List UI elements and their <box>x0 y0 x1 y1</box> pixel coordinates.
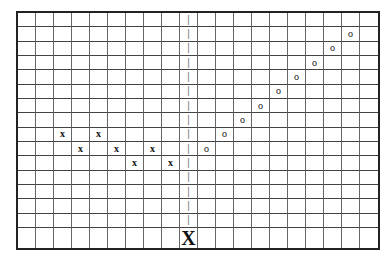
board-cell[interactable] <box>342 99 360 113</box>
board-cell[interactable] <box>36 56 54 70</box>
board-cell[interactable] <box>342 85 360 99</box>
board-cell[interactable] <box>324 199 342 213</box>
board-cell[interactable] <box>306 70 324 84</box>
board-cell[interactable]: o <box>342 27 360 41</box>
board-cell[interactable] <box>36 214 54 228</box>
board-cell[interactable] <box>72 85 90 99</box>
board-cell[interactable] <box>72 56 90 70</box>
board-cell[interactable] <box>252 70 270 84</box>
board-cell[interactable] <box>162 214 180 228</box>
board-cell[interactable] <box>90 42 108 56</box>
board-cell[interactable] <box>288 128 306 142</box>
board-cell[interactable] <box>216 142 234 156</box>
board-cell[interactable] <box>216 42 234 56</box>
board-cell[interactable] <box>36 185 54 199</box>
board-cell[interactable] <box>306 171 324 185</box>
board-cell[interactable] <box>54 27 72 41</box>
board-cell[interactable] <box>306 142 324 156</box>
board-cell[interactable] <box>72 99 90 113</box>
board-cell[interactable] <box>270 214 288 228</box>
board-cell[interactable] <box>72 42 90 56</box>
board-cell[interactable] <box>72 199 90 213</box>
board-cell[interactable] <box>36 27 54 41</box>
board-cell[interactable] <box>162 128 180 142</box>
board-cell[interactable] <box>324 142 342 156</box>
board-cell[interactable] <box>324 99 342 113</box>
board-cell[interactable] <box>360 56 378 70</box>
board-cell[interactable] <box>270 185 288 199</box>
board-cell[interactable] <box>306 156 324 170</box>
board-cell[interactable] <box>198 199 216 213</box>
board-cell[interactable] <box>234 99 252 113</box>
board-cell[interactable] <box>72 128 90 142</box>
board-cell[interactable] <box>18 171 36 185</box>
board-cell[interactable] <box>360 214 378 228</box>
board-cell[interactable] <box>162 99 180 113</box>
board-cell[interactable] <box>126 13 144 27</box>
board-cell[interactable] <box>90 171 108 185</box>
board-cell[interactable] <box>198 128 216 142</box>
board-cell[interactable] <box>324 113 342 127</box>
board-cell[interactable] <box>90 27 108 41</box>
board-cell[interactable] <box>126 228 144 248</box>
board-cell[interactable] <box>108 185 126 199</box>
board-cell[interactable]: x <box>108 142 126 156</box>
board-cell[interactable] <box>306 228 324 248</box>
board-cell[interactable] <box>306 113 324 127</box>
board-cell[interactable] <box>270 156 288 170</box>
board-cell[interactable] <box>18 128 36 142</box>
board-cell[interactable]: | <box>180 214 198 228</box>
board-cell[interactable] <box>108 128 126 142</box>
board-cell[interactable] <box>252 85 270 99</box>
board-cell[interactable] <box>234 128 252 142</box>
board-cell[interactable] <box>162 142 180 156</box>
board-cell[interactable] <box>234 27 252 41</box>
board-cell[interactable] <box>324 156 342 170</box>
board-cell[interactable] <box>126 56 144 70</box>
board-cell[interactable] <box>36 42 54 56</box>
board-cell[interactable] <box>234 199 252 213</box>
board-cell[interactable] <box>252 185 270 199</box>
board-cell[interactable]: x <box>90 128 108 142</box>
board-cell[interactable] <box>234 156 252 170</box>
board-cell[interactable] <box>270 42 288 56</box>
board-cell[interactable] <box>342 214 360 228</box>
board-cell[interactable] <box>18 185 36 199</box>
board-cell[interactable] <box>288 214 306 228</box>
board-cell[interactable] <box>216 27 234 41</box>
board-cell[interactable] <box>162 42 180 56</box>
board-cell[interactable] <box>252 199 270 213</box>
board-cell[interactable] <box>126 113 144 127</box>
board-cell[interactable]: | <box>180 199 198 213</box>
board-cell[interactable] <box>108 70 126 84</box>
board-cell[interactable] <box>252 156 270 170</box>
board-cell[interactable] <box>306 214 324 228</box>
board-cell[interactable]: x <box>144 142 162 156</box>
board-cell[interactable] <box>198 228 216 248</box>
board-cell[interactable] <box>252 13 270 27</box>
board-cell[interactable] <box>54 70 72 84</box>
board-cell[interactable] <box>324 70 342 84</box>
board-cell[interactable] <box>54 142 72 156</box>
board-cell[interactable] <box>54 185 72 199</box>
board-cell[interactable] <box>72 13 90 27</box>
board-cell[interactable] <box>288 85 306 99</box>
board-cell[interactable] <box>288 13 306 27</box>
board-cell[interactable] <box>234 56 252 70</box>
board-cell[interactable]: | <box>180 42 198 56</box>
board-cell[interactable] <box>162 27 180 41</box>
board-cell[interactable] <box>306 85 324 99</box>
board-cell[interactable] <box>90 199 108 213</box>
board-cell[interactable]: x <box>162 156 180 170</box>
board-cell[interactable] <box>342 128 360 142</box>
board-cell[interactable] <box>288 199 306 213</box>
board-cell[interactable] <box>72 171 90 185</box>
board-cell[interactable] <box>54 85 72 99</box>
board-cell[interactable] <box>360 128 378 142</box>
board-cell[interactable] <box>216 199 234 213</box>
board-cell[interactable] <box>234 85 252 99</box>
board-cell[interactable] <box>252 27 270 41</box>
board-cell[interactable] <box>270 13 288 27</box>
board-cell[interactable] <box>360 228 378 248</box>
board-cell[interactable] <box>198 113 216 127</box>
